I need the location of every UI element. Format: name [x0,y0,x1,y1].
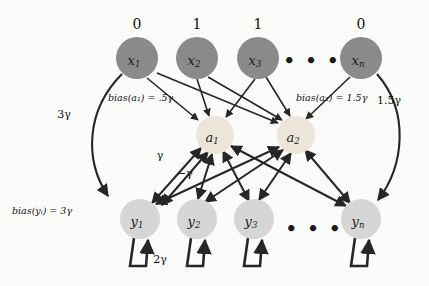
input-value-x2: 1 [193,16,202,32]
edge-a2-to-y3 [259,153,291,200]
self-loop-y2 [187,238,205,266]
node-x3[interactable] [237,37,279,79]
edge-x1-to-a2 [157,73,278,123]
edge-a1-y1-negative-label: −γ [177,167,193,180]
bias-a2-label: bias(a₂) = 1.5γ [296,92,368,103]
edge-xn-yn-weight-label: 1.5γ [377,94,401,107]
input-value-x1: 0 [133,16,142,32]
output-ellipsis: • • • [285,218,342,239]
self-loop-weight-label: 2γ [153,253,167,266]
edge-a2-to-y1 [156,147,279,204]
hidden-layer: a1 a2 [196,116,315,154]
annotations: bias(a₁) = .5γ bias(a₂) = 1.5γ bias(yᵢ) … [12,92,401,266]
edge-x1-y1-weight-label: 3γ [57,108,71,121]
node-x2[interactable] [176,37,218,79]
node-y1[interactable] [120,199,160,239]
input-ellipsis: • • • [283,50,340,71]
edge-a1-y1-positive-label: γ [157,149,164,162]
diagram-canvas: x1 x2 x3 xn 0 1 1 0 • • • a1 [0,0,429,286]
self-loop-y1 [130,238,148,266]
neural-network-diagram: x1 x2 x3 xn 0 1 1 0 • • • a1 [0,0,429,286]
node-a2[interactable] [277,116,315,154]
node-x1[interactable] [116,37,158,79]
self-loop-y3 [244,238,262,266]
node-y2[interactable] [177,199,217,239]
input-layer: x1 x2 x3 xn 0 1 1 0 • • • [116,16,382,79]
bias-a1-label: bias(a₁) = .5γ [108,92,174,103]
node-yn[interactable] [341,199,381,239]
node-a1[interactable] [196,116,234,154]
node-y3[interactable] [234,199,274,239]
edge-a2-to-yn [305,150,350,203]
output-layer: y1 y2 y3 yn • • • [120,199,381,239]
self-loop-yn [351,238,369,266]
bias-y-label: bias(yᵢ) = 3γ [12,205,72,216]
input-value-x3: 1 [254,16,263,32]
input-value-xn: 0 [357,16,366,32]
node-xn[interactable] [340,37,382,79]
edge-x3-to-a2 [266,77,290,116]
edge-x2-to-a1 [197,79,209,116]
